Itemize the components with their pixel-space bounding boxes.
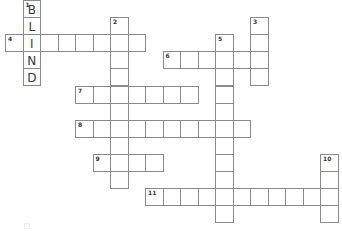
cell-input[interactable] <box>164 87 181 103</box>
cell-input[interactable] <box>164 121 181 137</box>
crossword-cell[interactable] <box>215 51 234 69</box>
cell-input[interactable] <box>251 35 268 51</box>
cell-input[interactable] <box>41 35 58 51</box>
cell-input[interactable] <box>129 121 146 137</box>
cell-input[interactable] <box>146 87 163 103</box>
cell-input[interactable] <box>216 87 233 103</box>
cell-input[interactable] <box>199 189 216 205</box>
cell-input[interactable] <box>216 138 233 154</box>
crossword-cell[interactable] <box>128 154 147 172</box>
crossword-cell[interactable] <box>145 120 164 138</box>
cell-input[interactable] <box>181 52 198 68</box>
crossword-cell[interactable] <box>303 188 322 206</box>
cell-input[interactable] <box>146 189 163 205</box>
cell-input[interactable] <box>181 121 198 137</box>
crossword-cell[interactable] <box>163 120 182 138</box>
cell-input[interactable] <box>6 35 23 51</box>
cell-input[interactable] <box>24 1 41 17</box>
crossword-cell[interactable] <box>163 188 182 206</box>
cell-input[interactable] <box>111 69 128 85</box>
crossword-cell[interactable] <box>180 86 199 104</box>
cell-input[interactable] <box>216 104 233 120</box>
cell-input[interactable] <box>216 69 233 85</box>
cell-input[interactable] <box>24 35 41 51</box>
cell-input[interactable] <box>164 52 181 68</box>
crossword-cell[interactable] <box>215 188 234 206</box>
crossword-cell[interactable] <box>93 120 112 138</box>
crossword-cell[interactable]: 6 <box>163 51 182 69</box>
crossword-cell[interactable]: 3 <box>250 17 269 35</box>
cell-input[interactable] <box>199 52 216 68</box>
crossword-cell[interactable] <box>180 120 199 138</box>
cell-input[interactable] <box>111 18 128 34</box>
cell-input[interactable] <box>24 52 41 68</box>
cell-input[interactable] <box>216 155 233 171</box>
crossword-cell[interactable]: 10 <box>320 154 339 172</box>
crossword-cell[interactable] <box>145 86 164 104</box>
cell-input[interactable] <box>251 18 268 34</box>
crossword-cell[interactable] <box>215 205 234 223</box>
crossword-cell[interactable] <box>250 68 269 86</box>
crossword-cell[interactable]: I <box>23 34 42 52</box>
cell-input[interactable] <box>234 189 251 205</box>
crossword-cell[interactable] <box>128 86 147 104</box>
cell-input[interactable] <box>76 87 93 103</box>
crossword-cell[interactable] <box>268 188 287 206</box>
crossword-cell[interactable] <box>250 188 269 206</box>
crossword-cell[interactable]: 7 <box>75 86 94 104</box>
crossword-cell[interactable] <box>233 120 252 138</box>
cell-input[interactable] <box>234 121 251 137</box>
cell-input[interactable] <box>146 155 163 171</box>
crossword-cell[interactable] <box>58 34 77 52</box>
cell-input[interactable] <box>164 189 181 205</box>
crossword-cell[interactable]: 4 <box>5 34 24 52</box>
crossword-cell[interactable] <box>180 51 199 69</box>
cell-input[interactable] <box>111 121 128 137</box>
cell-input[interactable] <box>304 189 321 205</box>
crossword-cell[interactable] <box>215 154 234 172</box>
cell-input[interactable] <box>24 69 41 85</box>
cell-input[interactable] <box>216 206 233 222</box>
crossword-cell[interactable]: N <box>23 51 42 69</box>
crossword-cell[interactable] <box>215 120 234 138</box>
crossword-cell[interactable] <box>110 154 129 172</box>
crossword-cell[interactable] <box>285 188 304 206</box>
crossword-cell[interactable]: 1B <box>23 0 42 18</box>
crossword-cell[interactable] <box>250 34 269 52</box>
crossword-cell[interactable] <box>110 68 129 86</box>
crossword-cell[interactable] <box>198 120 217 138</box>
cell-input[interactable] <box>111 138 128 154</box>
cell-input[interactable] <box>216 52 233 68</box>
crossword-cell[interactable] <box>110 120 129 138</box>
crossword-cell[interactable] <box>145 154 164 172</box>
crossword-cell[interactable] <box>198 51 217 69</box>
crossword-cell[interactable]: 9 <box>93 154 112 172</box>
crossword-cell[interactable] <box>320 171 339 189</box>
crossword-cell[interactable] <box>233 51 252 69</box>
crossword-cell[interactable] <box>320 205 339 223</box>
cell-input[interactable] <box>94 121 111 137</box>
crossword-cell[interactable] <box>215 68 234 86</box>
crossword-cell[interactable]: D <box>23 68 42 86</box>
crossword-cell[interactable] <box>110 86 129 104</box>
crossword-cell[interactable]: 8 <box>75 120 94 138</box>
cell-input[interactable] <box>286 189 303 205</box>
cell-input[interactable] <box>76 121 93 137</box>
cell-input[interactable] <box>111 35 128 51</box>
cell-input[interactable] <box>321 189 338 205</box>
cell-input[interactable] <box>216 172 233 188</box>
cell-input[interactable] <box>321 155 338 171</box>
cell-input[interactable] <box>146 121 163 137</box>
cell-input[interactable] <box>24 18 41 34</box>
cell-input[interactable] <box>321 206 338 222</box>
cell-input[interactable] <box>251 189 268 205</box>
cell-input[interactable] <box>111 172 128 188</box>
cell-input[interactable] <box>94 35 111 51</box>
crossword-cell[interactable] <box>215 171 234 189</box>
cell-input[interactable] <box>111 104 128 120</box>
crossword-cell[interactable] <box>110 34 129 52</box>
cell-input[interactable] <box>111 87 128 103</box>
crossword-cell[interactable] <box>180 188 199 206</box>
cell-input[interactable] <box>94 87 111 103</box>
crossword-cell[interactable] <box>233 188 252 206</box>
